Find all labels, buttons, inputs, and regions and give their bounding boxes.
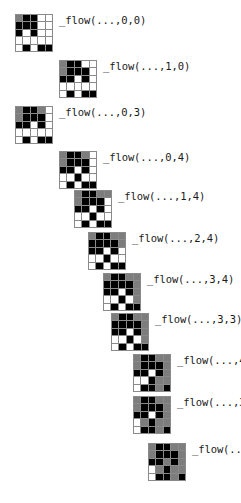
flow-cell [31, 37, 38, 44]
flow-cell [23, 107, 30, 114]
flow-cell [119, 240, 126, 247]
flow-cell [38, 114, 45, 121]
flow-cell [156, 385, 163, 392]
flow-cell [111, 274, 118, 281]
flow-cell [23, 114, 30, 121]
flow-grid [148, 443, 186, 481]
flow-sequence-figure: _flow(...,0,0)_flow(...,1,0)_flow(...,0,… [0, 0, 241, 503]
flow-cell [112, 336, 119, 343]
flow-cell [60, 152, 67, 159]
flow-cell [75, 91, 82, 98]
flow-cell [46, 45, 53, 52]
flow-panel-label: _flow(...,2,2) [192, 444, 241, 455]
flow-grid [59, 151, 97, 189]
flow-cell [134, 370, 141, 377]
flow-cell [60, 91, 67, 98]
flow-cell [75, 198, 82, 205]
flow-cell [111, 296, 118, 303]
flow-cell [96, 233, 103, 240]
flow-cell [82, 159, 89, 166]
flow-cell [134, 289, 141, 296]
flow-cell [134, 314, 141, 321]
flow-cell [89, 255, 96, 262]
flow-cell [75, 68, 82, 75]
flow-cell [75, 206, 82, 213]
flow-cell [46, 30, 53, 37]
flow-cell [134, 385, 141, 392]
flow-cell [141, 412, 148, 419]
flow-cell [46, 22, 53, 29]
flow-grid [111, 313, 149, 351]
flow-cell [126, 296, 133, 303]
flow-cell [23, 22, 30, 29]
flow-cell [23, 37, 30, 44]
flow-cell [156, 404, 163, 411]
flow-cell [96, 255, 103, 262]
flow-cell [164, 412, 171, 419]
flow-cell [126, 289, 133, 296]
flow-cell [179, 466, 186, 473]
flow-cell [104, 274, 111, 281]
flow-cell [141, 355, 148, 362]
flow-cell [156, 370, 163, 377]
flow-cell [111, 233, 118, 240]
flow-cell [112, 329, 119, 336]
flow-cell [82, 182, 89, 189]
flow-cell [67, 76, 74, 83]
flow-cell [46, 114, 53, 121]
flow-cell [164, 377, 171, 384]
flow-cell [119, 329, 126, 336]
flow-panel-label: _flow(...,4,3) [177, 355, 241, 366]
flow-cell [60, 83, 67, 90]
flow-cell [119, 304, 126, 311]
flow-panel: _flow(...,0,0) [15, 14, 146, 52]
flow-cell [127, 321, 134, 328]
flow-cell [89, 248, 96, 255]
flow-grid [133, 354, 171, 392]
flow-cell [60, 68, 67, 75]
flow-cell [149, 362, 156, 369]
flow-cell [31, 22, 38, 29]
flow-cell [46, 129, 53, 136]
flow-cell [134, 397, 141, 404]
flow-cell [67, 61, 74, 68]
flow-grid [15, 106, 53, 144]
flow-cell [23, 30, 30, 37]
flow-cell [119, 263, 126, 270]
flow-cell [104, 289, 111, 296]
flow-cell [90, 83, 97, 90]
flow-cell [31, 114, 38, 121]
flow-cell [38, 129, 45, 136]
flow-cell [31, 30, 38, 37]
flow-cell [105, 221, 112, 228]
flow-cell [31, 122, 38, 129]
flow-cell [134, 355, 141, 362]
flow-cell [127, 314, 134, 321]
flow-cell [119, 233, 126, 240]
flow-cell [82, 68, 89, 75]
flow-cell [82, 221, 89, 228]
flow-cell [38, 37, 45, 44]
flow-panel: _flow(...,3,4) [103, 273, 234, 311]
flow-cell [105, 198, 112, 205]
flow-cell [119, 248, 126, 255]
flow-cell [104, 263, 111, 270]
flow-cell [67, 83, 74, 90]
flow-cell [134, 362, 141, 369]
flow-cell [82, 198, 89, 205]
flow-cell [97, 213, 104, 220]
flow-cell [23, 45, 30, 52]
flow-cell [142, 336, 149, 343]
flow-cell [112, 321, 119, 328]
flow-cell [134, 304, 141, 311]
flow-cell [164, 466, 171, 473]
flow-cell [112, 344, 119, 351]
flow-cell [171, 459, 178, 466]
flow-cell [82, 206, 89, 213]
flow-cell [23, 129, 30, 136]
flow-cell [60, 174, 67, 181]
flow-cell [126, 274, 133, 281]
flow-cell [149, 377, 156, 384]
flow-cell [82, 83, 89, 90]
flow-panel: _flow(...,4,3) [133, 354, 241, 392]
